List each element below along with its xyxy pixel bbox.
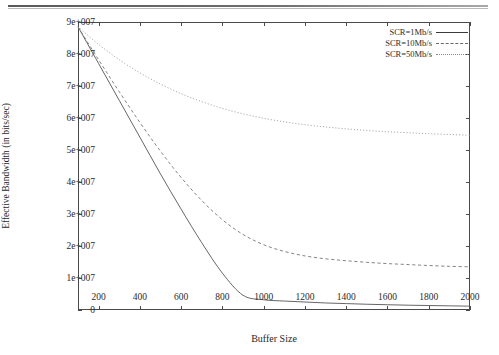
legend-line-sample-solid [436, 28, 468, 36]
legend-line-sample-dotted [436, 50, 468, 58]
x-tick-label: 600 [174, 292, 188, 302]
y-tick-label: 9e+007 [66, 17, 95, 27]
y-tick-label: 3e+007 [66, 209, 95, 219]
series-line-solid [78, 27, 470, 306]
legend-label: SCR=50Mb/s [385, 49, 432, 59]
y-tick-label: 8e+007 [66, 49, 95, 59]
y-tick-label: 5e+007 [66, 145, 95, 155]
x-tick-label: 1400 [337, 292, 356, 302]
legend-label: SCR=10Mb/s [385, 38, 432, 48]
x-tick-label: 800 [215, 292, 229, 302]
x-tick-label: 2000 [461, 292, 480, 302]
legend-item: SCR=1Mb/s [364, 26, 468, 37]
y-axis-title: Effective Bandwidth (in bits/sec) [1, 103, 11, 229]
plot-area [78, 22, 470, 310]
page-header-rule [8, 5, 488, 7]
legend-label: SCR=1Mb/s [389, 27, 432, 37]
legend-item: SCR=50Mb/s [364, 48, 468, 59]
x-tick-label: 400 [133, 292, 147, 302]
y-tick [78, 310, 82, 311]
page-header-rule-thin [8, 8, 488, 9]
x-tick-label: 1200 [295, 292, 314, 302]
y-tick-label: 2e+007 [66, 241, 95, 251]
y-tick-label: 6e+007 [66, 113, 95, 123]
y-tick-label: 7e+007 [66, 81, 95, 91]
x-tick [470, 22, 471, 26]
y-tick-label: 1e+007 [66, 273, 95, 283]
x-tick-label: 1600 [378, 292, 397, 302]
curve-layer [78, 22, 470, 310]
legend-line-sample-dashed [436, 39, 468, 47]
chart-legend: SCR=1Mb/sSCR=10Mb/sSCR=50Mb/s [364, 22, 470, 62]
x-tick-label: 200 [92, 292, 106, 302]
x-tick-label: 1800 [419, 292, 438, 302]
x-axis-title: Buffer Size [251, 333, 297, 344]
x-tick-label: 1000 [254, 292, 273, 302]
y-tick [466, 310, 470, 311]
legend-item: SCR=10Mb/s [364, 37, 468, 48]
series-line-dashed [78, 27, 470, 267]
y-tick-label: 0 [90, 305, 95, 315]
chart-page: Effective Bandwidth (in bits/sec) Buffer… [0, 0, 499, 355]
y-tick-label: 4e+007 [66, 177, 95, 187]
x-tick [470, 306, 471, 310]
